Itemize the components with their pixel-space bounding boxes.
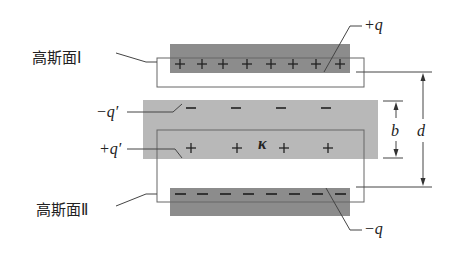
minus-q-prime-label: −q′ (96, 103, 119, 121)
gauss-2-leader (116, 194, 157, 206)
gauss-surface-2-label: 高斯面Ⅱ (36, 201, 88, 219)
gauss-surface-1-label: 高斯面Ⅰ (32, 49, 81, 67)
gauss-1-leader (116, 53, 157, 62)
b-label: b (391, 122, 399, 139)
minus-q-label: −q (364, 220, 383, 238)
plus-q-prime-label: +q′ (99, 140, 122, 158)
capacitor-diagram: 高斯面Ⅰ 高斯面Ⅱ +q −q −q′ +q′ κ b d (0, 0, 462, 263)
kappa-label: κ (258, 135, 267, 152)
d-label: d (417, 122, 426, 139)
plus-q-label: +q (364, 16, 383, 34)
